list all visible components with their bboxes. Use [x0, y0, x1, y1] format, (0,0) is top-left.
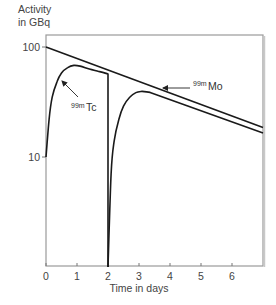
- y-axis-title-line-2: in GBq: [18, 16, 50, 28]
- tc-annotation-superscript: 99m: [71, 102, 85, 109]
- mo-upper-line: [46, 47, 263, 128]
- y-axis-ticks: 10100: [22, 41, 46, 163]
- x-tick-label: 5: [198, 270, 204, 282]
- y-axis-title-line-1: Activity: [18, 3, 52, 15]
- annotations: 99mTc99mMo: [62, 80, 223, 113]
- x-tick-label: 6: [229, 270, 235, 282]
- series-group: [46, 47, 263, 267]
- chart: 0123456 10100 99mTc99mMo Activity in GBq…: [0, 0, 276, 305]
- x-axis-title: Time in days: [109, 282, 168, 294]
- x-tick-label: 2: [105, 270, 111, 282]
- plot-border: [46, 35, 263, 266]
- tc-curve-cycle-2: [108, 91, 263, 267]
- mo-annotation-label: Mo: [208, 80, 223, 92]
- y-tick-label: 100: [22, 41, 40, 53]
- plot-frame: [46, 35, 265, 267]
- x-tick-label: 3: [136, 270, 142, 282]
- x-tick-label: 4: [167, 270, 173, 282]
- tc-annotation-label: Tc: [86, 101, 97, 113]
- y-tick-label: 10: [28, 151, 40, 163]
- mo-annotation-superscript: 99m: [193, 80, 207, 87]
- x-tick-label: 1: [74, 270, 80, 282]
- x-tick-label: 0: [43, 270, 49, 282]
- tc-annotation-arrow: [62, 81, 78, 97]
